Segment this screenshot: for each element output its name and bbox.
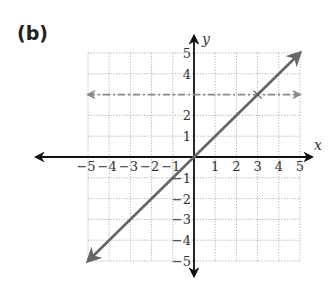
x-axis-label: x	[314, 137, 322, 153]
y-axis-label: y	[201, 31, 211, 47]
x-tick-label: 4	[275, 159, 283, 174]
x-tick-label: −4	[98, 159, 117, 174]
y-tick-label: −4	[172, 233, 191, 248]
x-tick-label: 3	[253, 159, 261, 174]
y-tick-label: −5	[172, 254, 191, 269]
x-tick-label: 1	[211, 159, 219, 174]
y-tick-label: 1	[183, 129, 191, 144]
y-tick-label: −1	[172, 171, 191, 186]
y-tick-label: 2	[183, 108, 191, 123]
coordinate-plot: xy −5−4−3−2−112345−5−4−3−2−11245	[0, 0, 330, 282]
x-tick-label: 5	[296, 159, 304, 174]
x-tick-label: 2	[232, 159, 240, 174]
y-tick-label: 5	[183, 46, 191, 61]
x-tick-label: −5	[76, 159, 95, 174]
y-tick-label: −2	[172, 192, 191, 207]
x-tick-label: −3	[119, 159, 138, 174]
x-tick-label: −2	[140, 159, 159, 174]
y-tick-label: 4	[183, 67, 191, 82]
y-tick-label: −3	[172, 212, 191, 227]
